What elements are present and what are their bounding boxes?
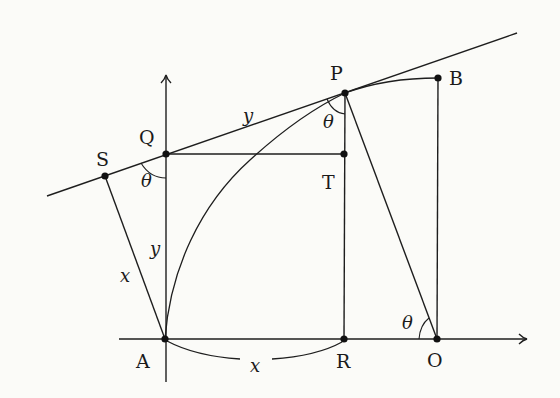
point-B — [434, 74, 441, 81]
point-S — [101, 172, 108, 179]
point-Q — [162, 150, 169, 157]
tangent-line — [47, 33, 517, 196]
label-O: O — [427, 349, 443, 371]
involute-curve — [165, 78, 438, 339]
label-theta-Q: θ — [141, 170, 152, 191]
label-theta-P: θ — [323, 111, 334, 132]
label-P: P — [330, 62, 343, 84]
label-S: S — [96, 148, 109, 170]
brace-arc-AR-left — [167, 341, 240, 359]
label-Q: Q — [139, 126, 155, 148]
point-O — [433, 335, 440, 342]
point-R — [340, 335, 347, 342]
angle-mark-O — [419, 318, 429, 339]
brace-arc-AR-right — [272, 342, 342, 359]
segment-BO — [437, 78, 438, 339]
label-A: A — [135, 350, 150, 372]
label-theta-O: θ — [402, 312, 413, 333]
label-x-SA: x — [120, 265, 130, 286]
label-x-AR: x — [250, 355, 260, 376]
label-y-QA: y — [149, 238, 161, 259]
point-A — [161, 335, 168, 342]
x-axis — [119, 334, 527, 344]
segment-PR — [344, 93, 345, 339]
point-T — [340, 150, 347, 157]
label-R: R — [336, 350, 351, 372]
label-B: B — [449, 67, 463, 89]
point-P — [341, 89, 348, 96]
label-T: T — [322, 171, 335, 193]
segment-PO — [345, 93, 437, 339]
label-y-QP: y — [242, 105, 254, 126]
geometry-diagram: A B O P Q R S T θ θ θ y y x x — [0, 0, 560, 398]
